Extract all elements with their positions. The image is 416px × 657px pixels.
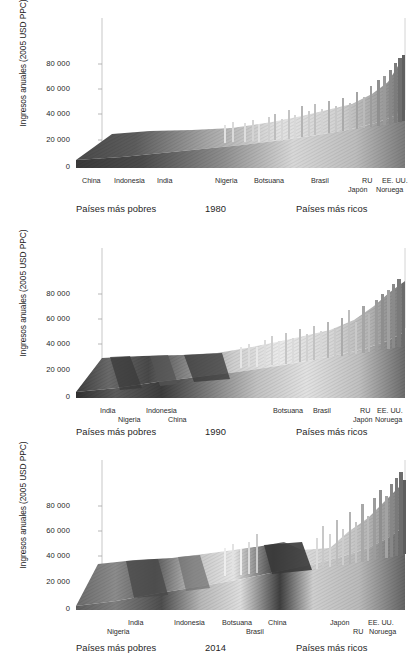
y-tick-20000: 20 000 <box>46 365 70 374</box>
caption-poorest: Países más pobres <box>76 203 156 214</box>
y-tick-40000: 40 000 <box>46 109 70 118</box>
y-tick-20000: 20 000 <box>46 135 70 144</box>
y-tick-40000: 40 000 <box>46 551 70 560</box>
country-label-brasil: Brasil <box>313 406 331 415</box>
caption-year: 1980 <box>205 203 226 214</box>
y-tick-labels-1990: 80 000 60 000 40 000 20 000 0 <box>30 248 70 398</box>
caption-richest: Países más ricos <box>296 642 367 653</box>
chart-panel-2014: Ingresos anuales (2005 USD PPC) 80 000 6… <box>0 442 416 657</box>
country-label-india: India <box>100 406 115 415</box>
country-label-indonesia: Indonesia <box>114 176 145 185</box>
country-label-nigeria: Nigeria <box>215 176 237 185</box>
country-label-nigeria: Nigeria <box>118 415 140 424</box>
country-label-china: China <box>82 176 101 185</box>
chart-panel-1990: Ingresos anuales (2005 USD PPC) 80 000 6… <box>0 230 416 442</box>
country-label-noruega: Noruega <box>369 627 396 636</box>
plot-area-1980 <box>72 18 408 168</box>
y-tick-labels-2014: 80 000 60 000 40 000 20 000 0 <box>30 460 70 610</box>
plot-area-2014 <box>72 460 408 610</box>
y-axis-title: Ingresos anuales (2005 USD PPC) <box>18 223 28 363</box>
caption-year: 1990 <box>205 426 226 437</box>
caption-richest: Países más ricos <box>296 203 367 214</box>
y-tick-80000: 80 000 <box>46 59 70 68</box>
country-label-botsuana: Botsuana <box>254 176 284 185</box>
country-label-india: India <box>157 176 172 185</box>
country-label-ru: RU <box>362 176 372 185</box>
country-label-indonesia: Indonesia <box>146 406 177 415</box>
country-label-noruega: Noruega <box>376 185 403 194</box>
plot-area-1990 <box>72 248 408 398</box>
country-label-brasil: Brasil <box>311 176 329 185</box>
y-tick-60000: 60 000 <box>46 314 70 323</box>
country-label-brasil: Brasil <box>246 627 264 636</box>
y-tick-80000: 80 000 <box>46 289 70 298</box>
country-label-botsuana: Botsuana <box>273 406 303 415</box>
country-label-eeuu: EE. UU. <box>368 618 394 627</box>
y-tick-60000: 60 000 <box>46 84 70 93</box>
caption-poorest: Países más pobres <box>76 426 156 437</box>
ridge-surface-2014 <box>72 460 408 612</box>
country-label-japon: Japón <box>353 415 372 424</box>
y-axis-title: Ingresos anuales (2005 USD PPC) <box>18 0 28 133</box>
country-label-ru: RU <box>360 406 370 415</box>
country-label-indonesia: Indonesia <box>174 618 205 627</box>
y-tick-0: 0 <box>66 392 70 401</box>
country-label-botsuana: Botsuana <box>222 618 252 627</box>
country-label-noruega: Noruega <box>375 415 402 424</box>
country-label-china: China <box>268 618 287 627</box>
y-tick-60000: 60 000 <box>46 526 70 535</box>
y-tick-80000: 80 000 <box>46 501 70 510</box>
country-label-eeuu: EE. UU. <box>377 406 403 415</box>
country-label-japon: Japón <box>348 185 367 194</box>
country-labels-2014: India Nigeria Indonesia Botsuana Brasil … <box>72 618 416 644</box>
y-axis-title: Ingresos anuales (2005 USD PPC) <box>18 435 28 575</box>
country-label-eeuu: EE. UU. <box>382 176 408 185</box>
country-label-nigeria: Nigeria <box>107 627 129 636</box>
y-tick-40000: 40 000 <box>46 339 70 348</box>
caption-richest: Países más ricos <box>296 426 367 437</box>
y-tick-labels-1980: 80 000 60 000 40 000 20 000 0 <box>30 18 70 168</box>
country-label-japon: Japón <box>330 618 349 627</box>
country-label-ru: RU <box>353 627 363 636</box>
chart-panel-1980: Ingresos anuales (2005 USD PPC) 80 000 6… <box>0 0 416 230</box>
y-tick-0: 0 <box>66 604 70 613</box>
country-label-china: China <box>168 415 187 424</box>
y-tick-0: 0 <box>66 162 70 171</box>
country-labels-1980: China Indonesia India Nigeria Botsuana B… <box>72 176 416 202</box>
y-tick-20000: 20 000 <box>46 577 70 586</box>
country-label-india: India <box>128 618 143 627</box>
caption-poorest: Países más pobres <box>76 642 156 653</box>
caption-year: 2014 <box>205 642 226 653</box>
ridge-surface-1990 <box>72 248 408 400</box>
ridge-surface-1980 <box>72 18 408 170</box>
